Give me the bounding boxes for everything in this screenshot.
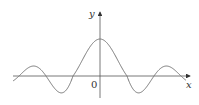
function-curve — [13, 39, 186, 93]
x-axis-label: x — [186, 79, 192, 90]
function-graph: y 0 x — [0, 0, 199, 105]
y-axis-label: y — [88, 8, 95, 19]
origin-label: 0 — [91, 79, 97, 90]
